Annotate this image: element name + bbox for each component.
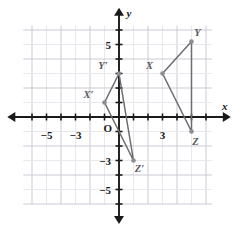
vertex-label-X: X bbox=[145, 60, 154, 71]
y-axis-name-label: y bbox=[125, 7, 132, 19]
x-axis-name-label: x bbox=[221, 100, 228, 112]
vertex-point bbox=[189, 39, 194, 44]
coordinate-plane-figure: −5−335−3−5O XYZX′Y′Z′ xy bbox=[0, 0, 244, 237]
vertex-point bbox=[102, 100, 107, 105]
x-axis-arrow-right bbox=[223, 112, 231, 122]
vertex-point bbox=[189, 129, 194, 134]
vertex-label-Y-prime: Y′ bbox=[98, 60, 107, 71]
x-axis-tick-label: −5 bbox=[41, 129, 53, 141]
vertex-label-X-prime: X′ bbox=[83, 89, 94, 100]
x-axis-tick-label: −3 bbox=[70, 129, 82, 141]
vertex-point bbox=[160, 71, 165, 76]
y-axis-arrow-up bbox=[114, 8, 124, 16]
y-axis-tick-label: −5 bbox=[99, 184, 111, 196]
x-axis-tick-label: 3 bbox=[160, 129, 166, 141]
x-axis-arrow-left bbox=[7, 112, 15, 122]
vertex-label-Z: Z bbox=[191, 136, 199, 147]
vertex-point bbox=[117, 71, 122, 76]
y-axis-tick-label: 5 bbox=[106, 39, 112, 51]
y-axis-arrow-down bbox=[114, 216, 124, 224]
vertex-label-Z-prime: Z′ bbox=[134, 163, 144, 174]
origin-label: O bbox=[103, 122, 112, 134]
coordinate-grid-svg: −5−335−3−5O XYZX′Y′Z′ xy bbox=[0, 0, 244, 237]
y-axis-tick-label: −3 bbox=[99, 155, 111, 167]
